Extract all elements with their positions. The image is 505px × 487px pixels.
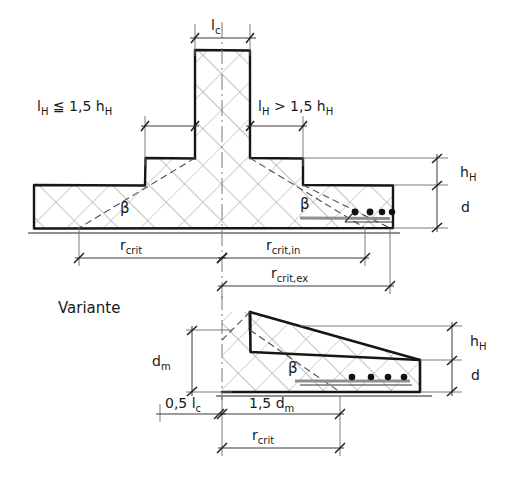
label-beta-right: β [300, 195, 310, 213]
label-hH-lower: hH [470, 333, 486, 352]
rebar-dot [352, 209, 359, 216]
label-rcrit-ex: rcrit,ex [271, 265, 308, 284]
dim-lh-left: lH ≦ 1,5 hH [37, 98, 199, 166]
label-beta-left: β [120, 199, 130, 217]
upper-concrete-hatch [30, 45, 400, 235]
dim-lower-chain: 0,5 lc 1,5 dm rcrit [156, 395, 345, 456]
rebar-dot [349, 374, 356, 381]
label-d-upper: d [461, 199, 470, 215]
label-lh-right: lH > 1,5 hH [258, 98, 333, 117]
label-dm: dm [152, 353, 171, 372]
rebar-dot [379, 209, 385, 215]
label-one-five-dm: 1,5 dm [249, 395, 294, 414]
label-lh-left: lH ≦ 1,5 hH [37, 98, 112, 117]
label-d-lower: d [471, 367, 480, 383]
rebar-dot [389, 209, 395, 215]
lower-section: β dm hH d [152, 296, 486, 456]
rebar-dot [385, 374, 392, 381]
technical-drawing-canvas: lc lH ≦ 1,5 hH lH > 1,5 hH [0, 0, 505, 487]
label-rcrit-upper: rcrit [120, 237, 142, 256]
label-hH-upper: hH [460, 164, 476, 183]
label-beta-lower: β [288, 359, 298, 377]
upper-section: lc lH ≦ 1,5 hH lH > 1,5 hH [28, 17, 476, 300]
label-rcrit-lower: rcrit [252, 427, 274, 446]
rebar-dot [367, 209, 374, 216]
variante-title: Variante [58, 299, 120, 317]
drawing-sheet: lc lH ≦ 1,5 hH lH > 1,5 hH [0, 0, 505, 487]
label-rcrit-in: rcrit,in [266, 237, 300, 256]
dim-lh-right: lH > 1,5 hH [246, 98, 333, 166]
dim-rcrit-chain: rcrit rcrit,in rcrit,ex [74, 228, 395, 294]
label-lc: lc [211, 17, 220, 36]
rebar-dot [401, 374, 408, 381]
label-half-lc: 0,5 lc [165, 395, 201, 414]
dim-dm: dm [152, 326, 232, 396]
rebar-dot [368, 374, 375, 381]
